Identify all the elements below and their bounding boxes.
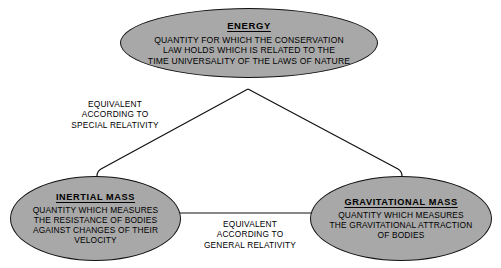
node-inertial-mass-body: QUANTITY WHICH MEASURES THE RESISTANCE O…: [33, 205, 159, 245]
node-inertial-mass-title: INERTIAL MASS: [56, 192, 135, 202]
edge-label-general-relativity: EQUIVALENT ACCORDING TO GENERAL RELATIVI…: [180, 219, 320, 250]
edge-energy-to-gravitational-mass: [248, 89, 402, 176]
edge-label-special-relativity: EQUIVALENT ACCORDING TO SPECIAL RELATIVI…: [45, 99, 185, 130]
node-inertial-mass[interactable]: INERTIAL MASS QUANTITY WHICH MEASURES TH…: [10, 176, 181, 261]
node-energy-body: QUANTITY FOR WHICH THE CONSERVATION LAW …: [148, 35, 350, 66]
node-energy-title: ENERGY: [227, 20, 271, 31]
node-gravitational-mass[interactable]: GRAVITATIONAL MASS QUANTITY WHICH MEASUR…: [310, 176, 492, 261]
node-gravitational-mass-body: QUANTITY WHICH MEASURES THE GRAVITATIONA…: [330, 210, 473, 240]
concept-diagram: ENERGY QUANTITY FOR WHICH THE CONSERVATI…: [0, 0, 501, 268]
node-energy[interactable]: ENERGY QUANTITY FOR WHICH THE CONSERVATI…: [120, 8, 378, 78]
node-gravitational-mass-title: GRAVITATIONAL MASS: [344, 197, 457, 207]
